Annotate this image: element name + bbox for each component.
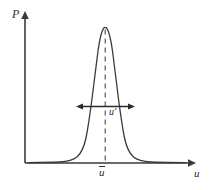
plot-canvas — [0, 0, 209, 190]
probability-distribution-figure: P u u u′ — [0, 0, 209, 190]
width-arrow-right-head — [128, 104, 135, 110]
arrow-right-icon — [188, 159, 196, 166]
gaussian-curve — [28, 27, 186, 162]
width-arrow-left-head — [76, 104, 83, 110]
width-value-label: u′ — [109, 107, 116, 117]
mean-value-label: u — [99, 166, 105, 179]
arrow-up-icon — [21, 11, 29, 19]
x-axis-label: u — [194, 168, 200, 179]
mean-value-label-text: u — [99, 166, 105, 179]
y-axis-label: P — [12, 8, 19, 20]
